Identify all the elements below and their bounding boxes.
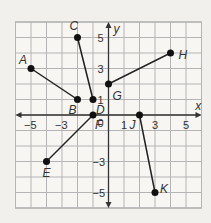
x-tick-label: 1 — [121, 119, 127, 131]
y-axis-label: y — [113, 22, 121, 36]
point-label-b: B — [69, 103, 77, 117]
point-label-k: K — [160, 182, 169, 196]
y-tick-label: 3 — [98, 63, 104, 75]
point-k — [152, 189, 159, 196]
point-label-e: E — [43, 166, 52, 180]
x-tick-label: 5 — [183, 119, 189, 131]
point-label-f: F — [95, 118, 103, 132]
point-label-c: C — [70, 19, 79, 33]
point-h — [167, 50, 174, 57]
point-label-d: D — [96, 103, 105, 117]
x-tick-label: 3 — [152, 119, 158, 131]
point-label-g: G — [113, 89, 122, 103]
point-label-h: H — [179, 48, 188, 62]
point-g — [105, 81, 112, 88]
coordinate-grid: xy−5−3135531−3−50ABCDGHEFJK — [0, 0, 211, 223]
point-label-a: A — [18, 53, 27, 67]
y-tick-label: −3 — [93, 156, 106, 168]
y-tick-label: −5 — [93, 187, 106, 199]
point-j — [136, 112, 143, 119]
x-tick-label: −3 — [55, 119, 68, 131]
point-c — [74, 34, 81, 41]
x-tick-label: −5 — [24, 119, 37, 131]
point-a — [28, 65, 35, 72]
y-tick-label: 5 — [98, 32, 104, 44]
x-axis-label: x — [194, 99, 202, 113]
point-e — [43, 158, 50, 165]
point-label-j: J — [129, 118, 137, 132]
